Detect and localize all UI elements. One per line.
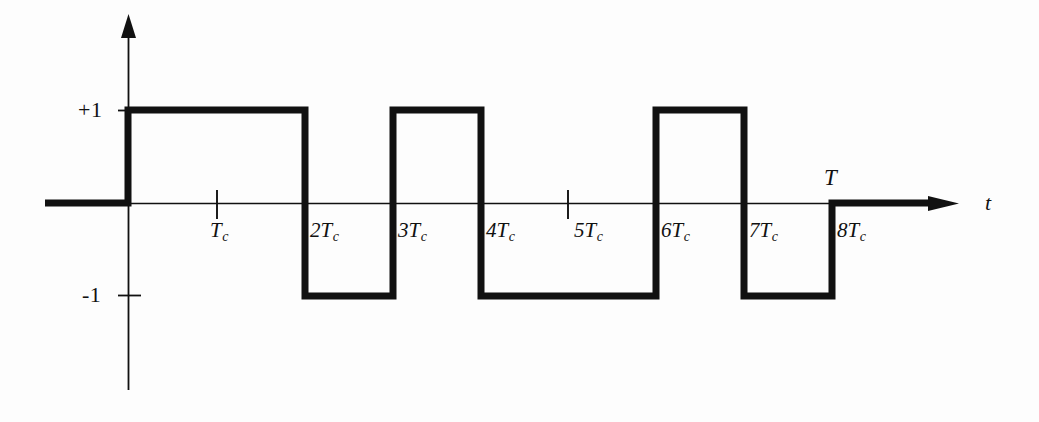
x-tick-label-8tc-sub: c — [859, 229, 866, 244]
x-tick-label-4tc: 4Tc — [486, 220, 515, 244]
x-tick-label-4tc-text: 4T — [486, 218, 508, 242]
x-tick-label-2tc-text: 2T — [310, 218, 332, 242]
y-tick-label-plus-one: +1 — [78, 99, 102, 121]
x-tick-label-5tc-sub: c — [596, 229, 603, 244]
time-axis — [45, 196, 959, 211]
amplitude-axis-arrowhead — [121, 14, 136, 38]
waveform-figure: +1 -1 T t Tc 2Tc 3Tc 4Tc 5Tc 6Tc 7Tc 8Tc — [0, 0, 1039, 422]
x-tick-label-tc-text: T — [210, 218, 222, 242]
waveform-canvas — [0, 0, 1039, 422]
x-tick-label-5tc: 5Tc — [574, 220, 603, 244]
x-tick-label-2tc-sub: c — [332, 229, 339, 244]
x-tick-label-5tc-text: 5T — [574, 218, 596, 242]
x-tick-label-tc: Tc — [210, 220, 228, 244]
x-tick-label-8tc: 8Tc — [837, 220, 866, 244]
x-tick-label-6tc-sub: c — [683, 229, 690, 244]
x-tick-label-2tc: 2Tc — [310, 220, 339, 244]
x-tick-label-7tc-sub: c — [771, 229, 778, 244]
x-tick-label-7tc-text: 7T — [749, 218, 771, 242]
x-tick-label-7tc: 7Tc — [749, 220, 778, 244]
x-tick-label-8tc-text: 8T — [837, 218, 859, 242]
x-tick-label-tc-sub: c — [222, 229, 229, 244]
x-tick-label-3tc: 3Tc — [398, 220, 427, 244]
x-tick-label-4tc-sub: c — [508, 229, 515, 244]
y-tick-label-minus-one: -1 — [82, 284, 101, 306]
x-tick-label-3tc-text: 3T — [398, 218, 420, 242]
x-tick-label-6tc-text: 6T — [661, 218, 683, 242]
time-axis-arrowhead — [928, 196, 959, 211]
x-axis-label: t — [985, 192, 991, 214]
symbol-period-label: T — [824, 166, 837, 189]
x-tick-label-6tc: 6Tc — [661, 220, 690, 244]
x-tick-label-3tc-sub: c — [420, 229, 427, 244]
